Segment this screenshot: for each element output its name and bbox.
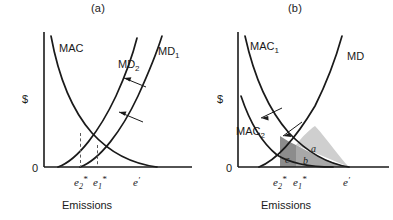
- panel-a-x-axis-label: Emissions: [62, 199, 113, 211]
- curve-md1: [80, 36, 162, 167]
- region-label-b: b: [303, 155, 308, 166]
- label-mac: MAC: [59, 42, 84, 54]
- panel-a: (a) MAC MD2: [0, 0, 196, 220]
- panel-b-y-axis-label: $: [217, 93, 223, 105]
- panel-b: (b): [197, 0, 393, 220]
- figure-container: (a) MAC MD2: [0, 0, 393, 220]
- panel-a-origin-label: 0: [32, 162, 38, 174]
- panel-b-origin-label: 0: [226, 162, 232, 174]
- curve-mac: [51, 36, 157, 167]
- panel-a-y-axis-label: $: [22, 93, 28, 105]
- label-mac2: MAC2: [236, 125, 265, 140]
- label-mac1: MAC1: [250, 40, 279, 55]
- tick-b-e1-star: e1*: [293, 174, 307, 191]
- label-md1: MD1: [158, 45, 180, 60]
- tick-b-e2-star: e2*: [273, 174, 287, 191]
- region-label-a: a: [311, 143, 316, 154]
- panel-b-plot: MAC1 MAC2 MD a b c $ 0 e2* e1*: [197, 0, 393, 220]
- tick-e2-star: e2*: [74, 174, 88, 191]
- tick-e1-star: e1*: [93, 174, 107, 191]
- tick-e-prime: e′: [133, 175, 141, 188]
- label-md2: MD2: [118, 58, 140, 73]
- panel-a-plot: MAC MD2 MD1 $ 0 e2* e1* e′ Emis: [0, 0, 196, 220]
- panel-b-x-axis-label: Emissions: [261, 199, 312, 211]
- region-label-c: c: [285, 154, 290, 165]
- label-md: MD: [347, 50, 364, 62]
- tick-b-e-prime: e′: [343, 175, 351, 188]
